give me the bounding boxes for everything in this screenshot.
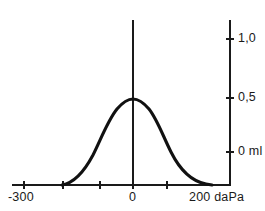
y-axis-label-1-0: 1,0	[238, 32, 256, 45]
tympanogram-chart: -300 0 200 daPa 1,0 0,5 0 ml	[0, 0, 265, 211]
x-axis-label-200-dapa: 200 daPa	[189, 191, 244, 204]
y-axis-label-0-ml: 0 ml	[238, 145, 262, 158]
chart-canvas	[0, 0, 265, 211]
x-axis-label-minus-300: -300	[8, 191, 34, 204]
y-axis-label-0-5: 0,5	[238, 91, 256, 104]
tympanogram-curve	[62, 99, 212, 185]
x-axis-label-zero: 0	[129, 191, 136, 204]
